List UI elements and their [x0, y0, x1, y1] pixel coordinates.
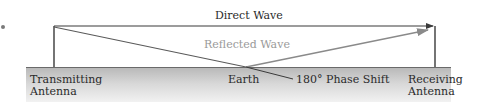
reflected-wave-label: Reflected Wave: [204, 39, 290, 50]
earth-label: Earth: [228, 74, 259, 85]
receiving-antenna-label-line2: Antenna: [408, 86, 455, 97]
two-ray-propagation-diagram: Direct Wave Reflected Wave Transmitting …: [0, 0, 487, 102]
transmitting-antenna-label-line1: Transmitting: [30, 74, 102, 85]
receiving-antenna-label-line1: Receiving: [408, 74, 463, 85]
phase-shift-label: 180° Phase Shift: [296, 74, 389, 85]
direct-wave-label: Direct Wave: [215, 10, 283, 21]
transmitting-antenna-label-line2: Antenna: [30, 86, 77, 97]
